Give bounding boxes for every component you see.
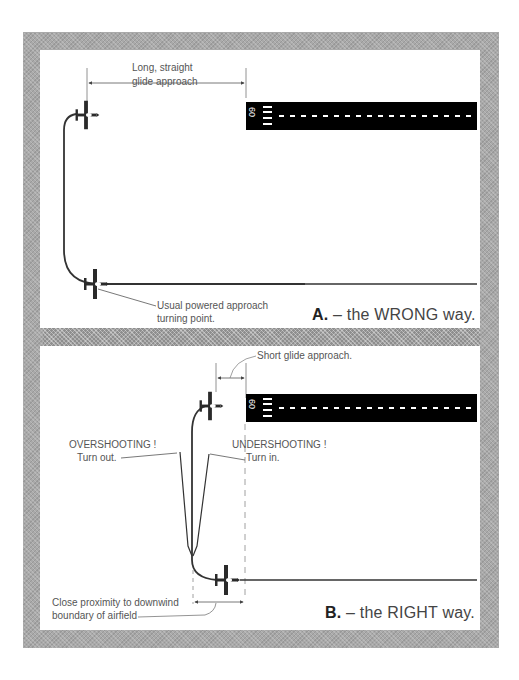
caption-a-text: – the WRONG way. (328, 306, 475, 323)
label-boundary-line1: Close proximity to downwind (52, 596, 179, 609)
runway-a (246, 102, 477, 130)
label-turn-in: Turn in. (246, 451, 280, 464)
panel-a-graphics (64, 68, 477, 306)
label-turning-point-line1: Usual powered approach (157, 299, 268, 312)
label-boundary-line2: boundary of airfield (52, 609, 137, 622)
label-turn-out: Turn out. (77, 451, 117, 464)
label-undershooting: UNDERSHOOTING ! (232, 438, 326, 451)
approach-diagram (0, 0, 519, 680)
caption-a: A. – the WRONG way. (312, 306, 476, 324)
caption-b-text: – the RIGHT way. (341, 604, 475, 621)
label-long-glide-line1: Long, straight (132, 61, 193, 74)
plane-icon (76, 101, 100, 130)
plane-icon (215, 565, 240, 595)
label-overshooting: OVERSHOOTING ! (69, 438, 156, 451)
caption-b-letter: B. (325, 604, 341, 621)
runway-a-number: 60 (245, 107, 258, 117)
label-short-glide: Short glide approach. (257, 349, 352, 362)
runway-b-number: 60 (245, 399, 258, 409)
panel-b-graphics (121, 356, 477, 617)
caption-a-letter: A. (312, 306, 328, 323)
label-long-glide-line2: glide approach (132, 75, 198, 88)
plane-icon (84, 269, 109, 299)
runway-b (246, 394, 477, 422)
caption-b: B. – the RIGHT way. (325, 604, 475, 622)
label-turning-point-line2: turning point. (157, 312, 215, 325)
plane-icon (200, 392, 224, 421)
